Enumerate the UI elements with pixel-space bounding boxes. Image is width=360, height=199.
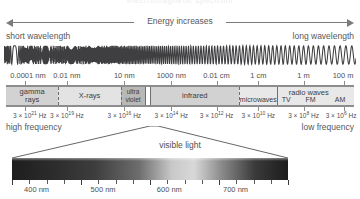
frequency-tick-label: 3 × 1014 Hz	[155, 112, 189, 119]
visible-light-tick	[288, 180, 289, 185]
band-label-infrared: infrared	[150, 92, 239, 101]
wavelength-tick-label: 0.01 nm	[53, 71, 80, 80]
frequency-tick-label: 3 × 108 Hz	[288, 112, 319, 119]
frequency-scale: 3 × 1021 Hz3 × 1019 Hz3 × 1016 Hz3 × 101…	[6, 106, 354, 122]
clipped-heading-text: electromagnetic spectrum	[0, 0, 360, 5]
band-divider	[277, 87, 278, 105]
wavelength-tick-label: 1 m	[297, 71, 310, 80]
band-label-ultraviolet-line2: violet	[121, 96, 145, 105]
arrow-right-icon	[347, 19, 354, 27]
band-label-ultraviolet: ultra	[121, 88, 145, 97]
band-segment-ultraviolet[interactable]: ultraviolet	[121, 87, 145, 105]
wavelength-tick-label: 0.0001 nm	[10, 71, 45, 80]
visible-light-highlight	[12, 158, 288, 161]
band-divider	[145, 87, 146, 105]
band-segment-x-rays[interactable]: X-rays	[58, 87, 121, 105]
visible-light-label: 600 nm	[157, 185, 182, 194]
visible-light-tick	[236, 180, 237, 184]
visible-light-tick	[64, 180, 65, 184]
wavelength-tick-label: 1000 nm	[157, 71, 186, 80]
radio-sublabel-am: AM	[335, 96, 346, 103]
em-spectrum-figure: electromagnetic spectrum Energy increase…	[0, 0, 360, 199]
frequency-scale-line	[6, 106, 354, 107]
frequency-tick-label: 3 × 1021 Hz	[13, 112, 47, 119]
wavelength-tick-label: 1 cm	[250, 71, 266, 80]
visible-light-tick	[167, 180, 168, 184]
visible-light-tick	[254, 180, 255, 184]
spectrum-band: gammaraysX-raysultravioletinfraredmicrow…	[6, 86, 354, 106]
visible-light-tick	[29, 180, 30, 184]
visible-light-tick	[98, 180, 99, 184]
frequency-tick-label: 3 × 1019 Hz	[50, 112, 84, 119]
band-divider	[58, 87, 59, 105]
wavelength-tick-label: 10 nm	[114, 71, 135, 80]
visible-light-tick	[116, 180, 117, 184]
frequency-tick-label: 3 × 1016 Hz	[108, 112, 142, 119]
visible-light-label: 500 nm	[91, 185, 116, 194]
radio-sublabel-fm: FM	[305, 96, 315, 103]
frequency-tick	[304, 106, 305, 111]
wavelength-tick-label: 0.01 cm	[203, 71, 230, 80]
band-divider	[239, 87, 240, 105]
energy-increases-label: Energy increases	[134, 15, 226, 27]
frequency-tick	[25, 106, 26, 111]
band-label-gamma-rays-line2: rays	[6, 96, 58, 105]
visible-light-label: 400 nm	[24, 185, 49, 194]
visible-light-tick	[133, 180, 134, 184]
band-segment-infrared[interactable]: infrared	[150, 87, 239, 105]
band-divider	[121, 87, 122, 105]
energy-increases-arrow: Energy increases	[6, 17, 354, 29]
wavelength-tick-label: 100 m	[333, 71, 354, 80]
visible-light-tick	[271, 180, 272, 184]
frequency-tick-label: 3 × 1012 Hz	[200, 112, 234, 119]
band-divider	[150, 87, 151, 105]
visible-light-bar: 400 nm500 nm600 nm700 nm	[12, 158, 288, 180]
band-label-x-rays: X-rays	[58, 92, 121, 101]
arrow-left-icon	[6, 19, 13, 27]
visible-light-tick	[185, 180, 186, 184]
short-wavelength-label: short wavelength	[6, 31, 70, 41]
long-wavelength-label: long wavelength	[293, 31, 354, 41]
visible-light-gradient	[12, 158, 288, 180]
radio-sublabel-tv: TV	[282, 96, 291, 103]
visible-light-label: 700 nm	[223, 185, 248, 194]
visible-light-tick-labels: 400 nm500 nm600 nm700 nm	[12, 185, 288, 196]
visible-light-title: visible light	[120, 140, 240, 150]
band-segment-gamma-rays[interactable]: gammarays	[6, 87, 58, 105]
visible-light-tick	[202, 180, 203, 184]
frequency-tick-label: 3 × 106 Hz	[326, 112, 357, 119]
wavelength-scale: 0.0001 nm0.01 nm10 nm1000 nm0.01 cm1 cm1…	[6, 72, 354, 87]
band-label-microwaves: microwaves	[239, 96, 277, 105]
visible-light-tick	[47, 180, 48, 184]
frequency-tick-label: 3 × 1010 Hz	[242, 112, 276, 119]
sine-wave-icon	[4, 42, 356, 70]
